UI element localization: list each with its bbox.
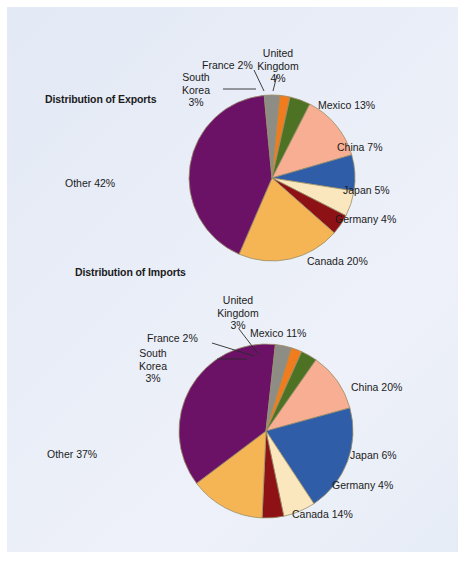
exports-leader-lines (7, 7, 458, 552)
pie-slice-canada (197, 431, 266, 518)
imports-label-south-korea: South Korea 3% (127, 347, 179, 385)
exports-label-japan: Japan 5% (343, 184, 390, 197)
imports-label-france: France 2% (147, 332, 209, 345)
pie-slice-united-kingdom (272, 97, 310, 178)
pie-slice-mexico (272, 104, 352, 178)
exports-label-china: China 7% (337, 141, 383, 154)
exports-title: Distribution of Exports (45, 93, 156, 105)
leader-line-france (254, 70, 264, 91)
leader-line-united-kingdom (239, 329, 259, 355)
pie-slice-other (189, 95, 272, 254)
exports-pie (7, 7, 458, 552)
imports-label-canada: Canada 14% (292, 508, 353, 521)
exports-label-canada: Canada 20% (307, 255, 368, 268)
imports-title: Distribution of Imports (75, 266, 186, 278)
imports-chart: Distribution of Imports United Kingdom 3… (7, 7, 458, 552)
exports-label-germany: Germany 4% (335, 213, 396, 226)
imports-pie (7, 7, 458, 552)
imports-label-other: Other 37% (47, 448, 162, 461)
exports-label-france: France 2% (202, 59, 253, 72)
pie-slice-japan (272, 178, 354, 216)
pie-slice-other (179, 344, 275, 483)
leader-line-france (212, 343, 254, 356)
pie-slice-germany (262, 431, 284, 518)
imports-label-mexico: Mexico 11% (250, 327, 306, 340)
pie-slice-south-korea (266, 345, 291, 431)
figure-panel: Distribution of Exports United Kingdom 4… (7, 7, 458, 552)
imports-label-china: China 20% (351, 381, 402, 394)
imports-label-united-kingdom: United Kingdom 3% (207, 294, 269, 332)
pie-slice-germany (272, 178, 346, 233)
imports-label-germany: Germany 4% (332, 479, 393, 492)
pie-slice-france (266, 348, 302, 431)
pie-slice-canada (239, 178, 334, 261)
pie-slice-mexico (266, 360, 350, 431)
imports-leader-lines (7, 7, 458, 552)
exports-label-united-kingdom: United Kingdom 4% (247, 47, 309, 85)
exports-label-mexico: Mexico 13% (318, 99, 375, 112)
pie-slice-china (266, 408, 353, 504)
exports-label-other: Other 42% (65, 177, 180, 190)
imports-label-japan: Japan 6% (350, 449, 397, 462)
pie-slice-france (272, 95, 290, 178)
pie-slice-south-korea (264, 95, 280, 178)
leader-line-united-kingdom (273, 75, 277, 91)
pie-slice-japan (266, 431, 314, 516)
exports-chart: Distribution of Exports United Kingdom 4… (7, 7, 458, 552)
pie-slice-china (272, 155, 355, 191)
pie-slice-united-kingdom (266, 352, 316, 431)
exports-label-south-korea: South Korea 3% (170, 71, 222, 109)
